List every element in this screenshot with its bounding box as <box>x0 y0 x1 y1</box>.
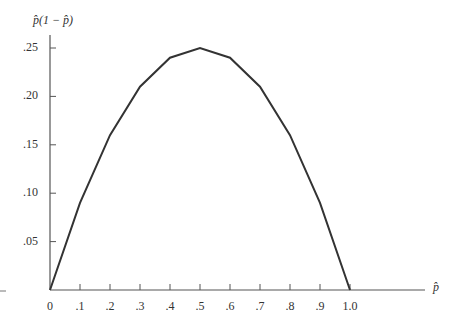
y-tick-label: .20 <box>8 88 38 103</box>
y-tick-label: .05 <box>8 234 38 249</box>
y-tick-label: .15 <box>8 137 38 152</box>
y-ticks <box>50 48 56 242</box>
x-axis-title: p̂ <box>433 280 439 295</box>
x-tick-label: .6 <box>218 299 242 314</box>
x-tick-label: .3 <box>128 299 152 314</box>
x-ticks <box>80 284 350 290</box>
y-tick-label: .25 <box>8 40 38 55</box>
x-tick-label: 0 <box>38 299 62 314</box>
x-tick-label: .4 <box>158 299 182 314</box>
x-tick-label: .5 <box>188 299 212 314</box>
x-tick-label: .1 <box>68 299 92 314</box>
y-tick-label: .10 <box>8 185 38 200</box>
x-tick-label: .8 <box>278 299 302 314</box>
x-tick-label: .7 <box>248 299 272 314</box>
x-tick-label: 1.0 <box>338 299 362 314</box>
series-line <box>50 48 350 290</box>
x-tick-label: .9 <box>308 299 332 314</box>
plot-area <box>0 0 458 323</box>
x-tick-label: .2 <box>98 299 122 314</box>
y-axis-title: p̂(1 − p̂) <box>33 13 73 28</box>
